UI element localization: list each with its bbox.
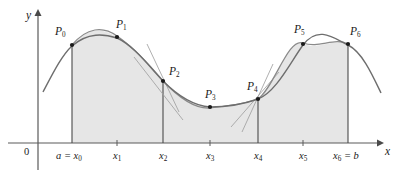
- shaded-area-under-curve: [72, 31, 348, 143]
- point-P2: [161, 79, 165, 83]
- tick-label-x6: x6 = b: [333, 151, 359, 163]
- point-P0: [70, 43, 74, 47]
- tick-label-x4: x4: [254, 151, 262, 163]
- point-P5: [301, 42, 305, 46]
- point-P3: [208, 105, 212, 109]
- point-label-P4: P4: [247, 81, 258, 94]
- tick-label-x2: x2: [159, 151, 167, 163]
- point-label-P0: P0: [55, 26, 66, 39]
- tick-label-x0: a = x0: [56, 151, 82, 163]
- point-label-P5: P5: [294, 24, 305, 37]
- x-axis-label: x: [385, 146, 390, 158]
- point-P1: [115, 35, 119, 39]
- simpsons-rule-figure: y x 0 P0 P1 P2 P3 P4 P5 P6 a = x0 x1 x2 …: [0, 0, 410, 175]
- tick-label-x1: x1: [113, 151, 121, 163]
- tick-label-x5: x5: [299, 151, 307, 163]
- point-label-P3: P3: [205, 89, 216, 102]
- point-label-P1: P1: [116, 19, 127, 32]
- origin-label: 0: [24, 147, 29, 158]
- point-P6: [346, 42, 350, 46]
- point-label-P2: P2: [169, 66, 180, 79]
- point-label-P6: P6: [350, 26, 361, 39]
- tick-label-x3: x3: [206, 151, 214, 163]
- y-axis-label: y: [26, 10, 31, 22]
- point-P4: [256, 97, 260, 101]
